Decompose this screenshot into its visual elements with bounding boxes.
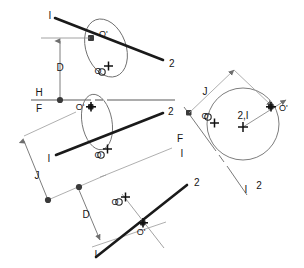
fold-line-label-2-bottom: 2 [256,180,262,191]
front-view-o-cross-icon [104,62,113,71]
top-view-label-line-1: I [48,153,51,164]
front-view-label-line-1: I [49,10,52,21]
aux2-fold-point-marker [45,197,51,203]
aux1-label-dimension-j: J [203,86,208,97]
geometry-drawing: I 2 O' O D H F O' [0,0,304,268]
aux1-point-view-cross-icon [238,122,248,132]
front-view-label-line-2: 2 [169,58,175,69]
aux1-label-o: O [201,111,208,121]
aux1-o-prime-cross-icon [266,102,276,112]
front-view: I 2 O' O D [41,10,175,98]
fold-line-h-f: H F O' [31,87,175,114]
aux1-fold-line-dash [219,155,224,162]
aux2-label-line-2: 2 [194,177,200,188]
top-view-label-o: O [94,150,101,160]
fold-line-f-i-dash [100,175,106,177]
aux1-label-point-view: 2,I [237,110,248,121]
fold-line-o-prime-cross-icon [86,102,96,112]
aux2-origin-point-marker [76,184,82,190]
aux2-label-dimension-d: D [82,209,89,220]
aux2-fold-line [92,222,166,247]
auxiliary-view-edge-view: D I 2 O O' [45,177,200,260]
front-view-line-1-2 [55,18,163,60]
top-view: I 2 O J [24,92,174,200]
fold-line-label-i-bottom: I [245,184,248,195]
fold-line-f-i-segment [108,148,172,174]
fold-line-i-2: I 2 [245,180,263,195]
fold-line-label-h: H [35,87,42,98]
aux2-label-line-1: I [95,249,98,260]
fold-line-f-i: F I [100,133,183,177]
front-view-revolution-ellipse [77,13,135,83]
fold-line-h-f-point-marker [57,97,63,103]
aux1-o-cross-icon [210,119,219,128]
aux2-label-o-prime: O' [137,227,146,237]
front-view-label-o: O [94,66,101,76]
front-view-label-o-prime: O' [99,29,108,39]
geometry-canvas: I 2 O' O D H F O' [0,0,304,268]
aux1-label-o-prime: O' [279,103,288,113]
top-view-label-line-2: 2 [168,106,174,117]
fold-line-label-f-right: F [177,133,183,144]
top-view-label-dimension-j: J [35,170,40,181]
top-view-j-guide-upper [24,112,76,136]
front-view-label-dimension-d: D [56,62,63,73]
fold-line-label-f: F [36,103,42,114]
auxiliary-view-point-view: J 2,I O O' [184,70,288,195]
fold-line-label-i-right: I [181,148,184,159]
aux2-label-o: O [111,197,118,207]
aux1-fold-point-marker [186,110,192,116]
top-view-o-cross-icon [103,145,112,154]
